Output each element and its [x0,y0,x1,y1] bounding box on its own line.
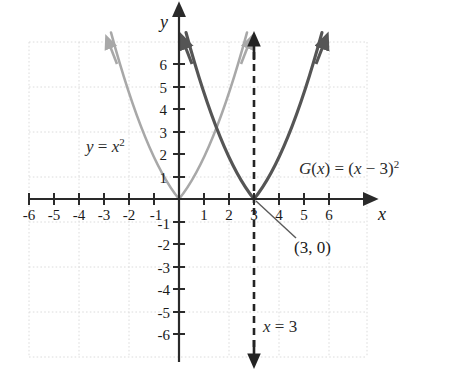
x-tick-label: -6 [23,207,36,223]
x-tick-label: -5 [48,207,61,223]
y-tick-label: -1 [158,216,171,232]
vertex-point-label: (3, 0) [294,238,331,257]
transformed-function-label: G(x) = (x − 3)2 [299,158,399,178]
x-tick-label: 1 [200,207,208,223]
y-tick-label: 3 [160,125,168,141]
y-tick-label: 2 [160,147,168,163]
y-tick-label: 6 [160,57,168,73]
x-axis-label: x [377,204,386,224]
y-tick-label: 5 [160,80,168,96]
x-tick-label: 5 [300,207,308,223]
x-tick-label: -3 [98,207,111,223]
y-tick-label: -3 [158,260,171,276]
graph-figure: -6 -5 -4 -3 -2 -1 1 2 3 4 5 6 6 5 4 3 2 … [0,0,472,378]
y-tick-label: -6 [158,327,171,343]
y-tick-label: 4 [160,102,168,118]
x-tick-label: 2 [225,207,233,223]
x-tick-label: 6 [325,207,333,223]
y-tick-label: 1 [160,170,168,186]
x-tick-label: -2 [123,207,136,223]
vertical-asymptote-label: x = 3 [262,317,297,336]
y-tick-label: -5 [158,305,171,321]
y-tick-label: -4 [158,282,171,298]
x-tick-label: 3 [250,207,258,223]
coordinate-plane-svg: -6 -5 -4 -3 -2 -1 1 2 3 4 5 6 6 5 4 3 2 … [0,0,472,378]
y-axis-label: y [158,12,168,32]
y-tick-label: -2 [158,237,171,253]
x-tick-label: -4 [73,207,86,223]
parent-function-label: y = x2 [84,136,125,156]
